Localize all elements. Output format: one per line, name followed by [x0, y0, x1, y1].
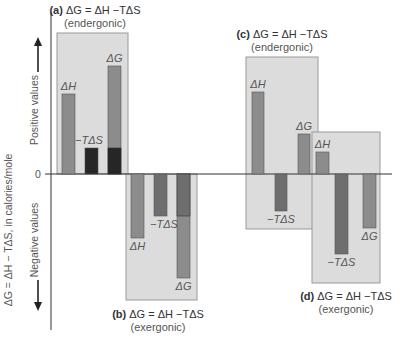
up-arrow-icon — [34, 37, 42, 72]
panel-d-label-tds: −TΔS — [328, 256, 357, 268]
panel-a-bar-tds — [85, 148, 98, 174]
down-arrow-icon — [34, 280, 42, 311]
panel-c-bar-dh — [252, 92, 264, 174]
zero-label: 0 — [35, 168, 41, 180]
panel-b-bar-dh — [131, 174, 144, 238]
panel-a-title: (a) ΔG = ΔH −TΔS — [49, 4, 140, 16]
panel-letter: (c) — [236, 28, 253, 40]
panel-b-label-dg: ΔG — [175, 280, 192, 292]
positive-values-label: Positive values — [28, 75, 40, 145]
panel-d-bar-dg — [363, 174, 376, 228]
panel-a-bar-dh — [62, 94, 75, 174]
panel-a-type: (endergonic) — [64, 17, 126, 29]
panel-d-label-dg: ΔG — [361, 230, 378, 242]
panel-c-type: (endergonic) — [251, 41, 313, 53]
panel-b-label-dh: ΔH — [129, 240, 145, 252]
panel-b-type: (exergonic) — [130, 321, 185, 333]
panel-b-bar-dg-stacked-part — [177, 174, 190, 216]
panel-equation: ΔG = ΔH −TΔS — [317, 290, 392, 302]
y-axis-label: ΔG = ΔH − TΔS, in calories/mole — [2, 153, 14, 306]
panel-c-bar-tds — [275, 174, 287, 211]
negative-values-label: Negative values — [28, 203, 40, 278]
panel-letter: (b) — [112, 308, 129, 320]
panel-d-label-dh: ΔH — [314, 138, 330, 150]
thermodynamics-diagram: 0 ΔG = ΔH − TΔS, in calories/mole Positi… — [0, 0, 404, 348]
panel-d-bar-tds — [335, 174, 348, 254]
panel-letter: (a) — [49, 4, 66, 16]
panel-b-label-tds: −TΔS — [150, 218, 179, 230]
panel-equation: ΔG = ΔH −TΔS — [66, 4, 141, 16]
panel-b-title: (b) ΔG = ΔH −TΔS — [112, 308, 204, 320]
panel-c-title: (c) ΔG = ΔH −TΔS — [236, 28, 327, 40]
panel-a-label-tds: −TΔS — [75, 134, 104, 146]
panel-d-title: (d) ΔG = ΔH −TΔS — [300, 290, 392, 302]
panel-equation: ΔG = ΔH −TΔS — [253, 28, 328, 40]
panel-equation: ΔG = ΔH −TΔS — [129, 308, 204, 320]
panel-letter: (d) — [300, 290, 317, 302]
panel-c-label-dh: ΔH — [249, 78, 265, 90]
panel-a-label-dh: ΔH — [60, 80, 76, 92]
panel-d-bar-dh — [316, 152, 329, 174]
panel-d-type: (exergonic) — [318, 303, 373, 315]
panel-c-bar-dg — [298, 134, 310, 174]
panel-c-label-dg: ΔG — [295, 120, 312, 132]
panel-a-bar-dg-stacked-part — [108, 148, 121, 174]
panel-b-bar-tds — [154, 174, 167, 216]
panel-a-label-dg: ΔG — [106, 52, 123, 64]
panel-c-label-tds: −TΔS — [267, 213, 296, 225]
